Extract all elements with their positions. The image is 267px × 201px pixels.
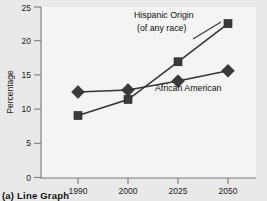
y-tick-label-25: 25: [22, 3, 32, 13]
figure-caption: (a) Line Graph: [2, 190, 69, 201]
hispanic-origin-label-line1: Hispanic Origin: [134, 10, 194, 20]
percentage-line-chart: 0 5 10 15 20 25 Percentage 1990 2000 202…: [0, 0, 267, 201]
x-tick-label-2050: 2050: [219, 186, 238, 196]
y-axis-title: Percentage: [5, 70, 15, 114]
series-label-african-american: African American: [155, 83, 222, 93]
hispanic-origin-label-line2: (of any race): [137, 23, 186, 33]
y-tick-label-0: 0: [26, 173, 31, 183]
y-tick-label-10: 10: [22, 104, 32, 114]
y-tick-label-5: 5: [26, 138, 31, 148]
line-graph-figure: 0 5 10 15 20 25 Percentage 1990 2000 202…: [0, 0, 267, 201]
y-tick-label-20: 20: [22, 36, 32, 46]
x-tick-label-2025: 2025: [169, 186, 188, 196]
x-tick-label-1990: 1990: [69, 186, 88, 196]
data-point-hispanic-2050: [224, 20, 232, 28]
data-point-hispanic-1990: [74, 112, 82, 120]
y-tick-label-15: 15: [22, 70, 32, 80]
x-tick-label-2000: 2000: [119, 186, 138, 196]
data-point-hispanic-2025: [174, 58, 182, 66]
